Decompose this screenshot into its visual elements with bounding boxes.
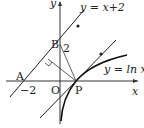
origin-label: O bbox=[51, 84, 60, 97]
y-axis-label: y bbox=[49, 0, 57, 10]
point-a-label: A bbox=[15, 70, 25, 83]
point-b-label: B bbox=[51, 38, 59, 51]
point-p-label: P bbox=[75, 84, 83, 97]
right-angle-mark bbox=[45, 62, 52, 66]
tangent-point-dot bbox=[99, 52, 102, 55]
math-diagram: y x O A −2 B 2 P y = x+2 y = ln x bbox=[0, 0, 144, 128]
line-point-dot bbox=[76, 24, 79, 27]
line-equation-label: y = x+2 bbox=[79, 1, 125, 14]
point-a-value: −2 bbox=[20, 84, 36, 97]
ln-equation-label: y = ln x bbox=[103, 63, 144, 76]
x-axis-label: x bbox=[132, 85, 139, 98]
x-axis-arrow-icon bbox=[133, 79, 138, 83]
y-axis-arrow-icon bbox=[58, 1, 62, 6]
point-b-value: 2 bbox=[63, 42, 70, 55]
